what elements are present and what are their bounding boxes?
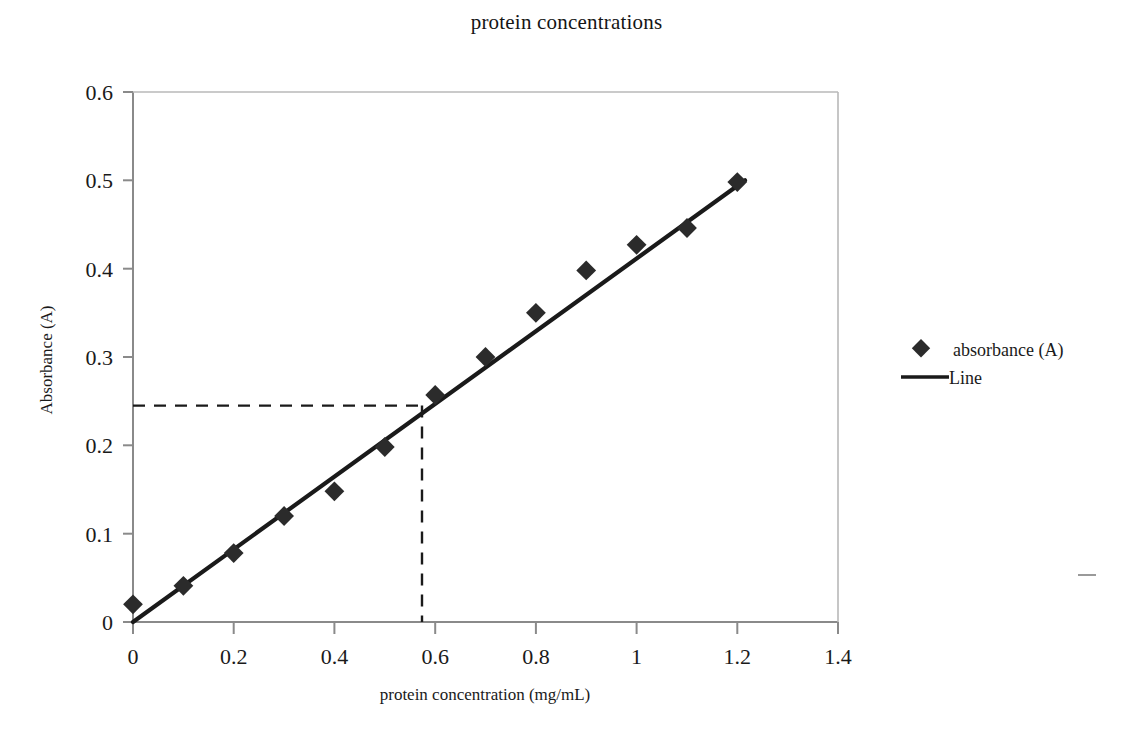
y-tick-label-5: 0.5 <box>86 168 114 193</box>
y-tick-label-3: 0.3 <box>86 345 114 370</box>
scatter-series-absorbance <box>123 172 747 614</box>
data-point-marker <box>576 261 596 281</box>
plot-canvas: 0 0.1 0.2 0.3 0.4 0.5 0.6 0 0.2 0.4 0.6 … <box>0 0 1133 736</box>
x-tick-label-7: 1.4 <box>824 644 852 669</box>
data-point-marker <box>425 385 445 405</box>
data-point-marker <box>375 437 395 457</box>
x-tick-label-3: 0.6 <box>421 644 449 669</box>
y-tick-label-0: 0 <box>102 610 113 635</box>
data-point-marker <box>526 303 546 323</box>
y-tick-label-1: 0.1 <box>86 522 114 547</box>
x-tick-label-0: 0 <box>128 644 139 669</box>
y-axis-title: Absorbance (A) <box>37 305 56 414</box>
y-tick-label-4: 0.4 <box>86 257 114 282</box>
trend-line-series <box>133 180 745 622</box>
chart-legend: absorbance (A) Line <box>901 339 1063 388</box>
x-tick-label-2: 0.4 <box>321 644 349 669</box>
y-tick-label-2: 0.2 <box>86 433 114 458</box>
legend-label-absorbance: absorbance (A) <box>953 340 1063 361</box>
y-tick-label-6: 0.6 <box>86 80 114 105</box>
x-tick-label-4: 0.8 <box>522 644 550 669</box>
data-point-marker <box>677 218 697 238</box>
x-axis-title: protein concentration (mg/mL) <box>380 685 591 704</box>
x-tick-label-6: 1.2 <box>724 644 752 669</box>
legend-label-line: Line <box>949 368 982 388</box>
data-point-marker <box>325 481 345 501</box>
x-axis-ticks <box>133 622 838 634</box>
trend-line <box>133 180 745 622</box>
y-axis-ticks <box>123 92 133 622</box>
x-tick-label-1: 0.2 <box>220 644 248 669</box>
chart-figure: protein concentrations 0 0.1 0.2 0.3 0.4 <box>0 0 1133 736</box>
data-point-marker <box>123 594 143 614</box>
x-tick-label-5: 1 <box>631 644 642 669</box>
legend-diamond-icon <box>912 339 930 357</box>
y-axis-tick-labels: 0 0.1 0.2 0.3 0.4 0.5 0.6 <box>86 80 114 635</box>
x-axis-tick-labels: 0 0.2 0.4 0.6 0.8 1 1.2 1.4 <box>128 644 852 669</box>
